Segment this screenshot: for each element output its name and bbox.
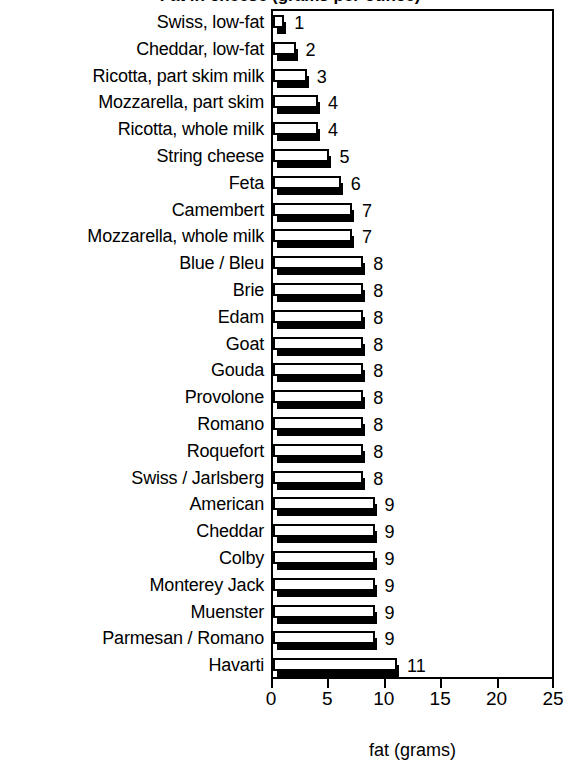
bar-row: 7: [273, 225, 552, 252]
bar-value-label: 4: [328, 93, 338, 113]
x-tick: [497, 679, 499, 688]
bar-value-label: 8: [373, 308, 383, 328]
category-label: Gouda: [0, 357, 264, 384]
bar-row: 4: [273, 91, 552, 118]
bar-row: 9: [273, 547, 552, 574]
category-label: Havarti: [0, 652, 264, 679]
chart-title-strip: Fat in cheese (grams per ounce): [0, 0, 580, 9]
bar-face: [273, 578, 375, 591]
x-tick-label: 5: [307, 688, 347, 710]
bar-row: 6: [273, 172, 552, 199]
bar-face: [273, 337, 363, 350]
category-label: Feta: [0, 170, 264, 197]
bar-row: 8: [273, 333, 552, 360]
x-tick-label: 10: [364, 688, 404, 710]
bar-value-label: 8: [373, 254, 383, 274]
x-tick-label: 25: [533, 688, 573, 710]
category-label: Parmesan / Romano: [0, 625, 264, 652]
bar-row: 9: [273, 574, 552, 601]
bar-row: 9: [273, 601, 552, 628]
bar-face: [273, 203, 352, 216]
category-label: Muenster: [0, 599, 264, 626]
category-label: Provolone: [0, 384, 264, 411]
bar-face: [273, 95, 318, 108]
category-label: Camembert: [0, 197, 264, 224]
bar-value-label: 11: [407, 656, 426, 676]
bar-row: 8: [273, 386, 552, 413]
category-label: Ricotta, part skim milk: [0, 63, 264, 90]
x-tick-label: 0: [251, 688, 291, 710]
bar-face: [273, 524, 375, 537]
bar-face: [273, 69, 307, 82]
x-axis-ticks: [271, 679, 554, 688]
x-tick: [327, 679, 329, 688]
bar-face: [273, 229, 352, 242]
bar-row: 9: [273, 520, 552, 547]
bar-row: 4: [273, 118, 552, 145]
chart-root: Fat in cheese (grams per ounce) Swiss, l…: [0, 0, 580, 774]
category-label: Ricotta, whole milk: [0, 116, 264, 143]
bar-row: 2: [273, 38, 552, 65]
bar-face: [273, 363, 363, 376]
category-label: Swiss, low-fat: [0, 9, 264, 36]
bar-value-label: 8: [373, 469, 383, 489]
bar-face: [273, 631, 375, 644]
category-label: Cheddar: [0, 518, 264, 545]
bar-value-label: 8: [373, 281, 383, 301]
bar-face: [273, 42, 296, 55]
category-label: Mozzarella, whole milk: [0, 223, 264, 250]
x-axis-tick-labels: 0510152025: [231, 688, 580, 712]
category-label: American: [0, 491, 264, 518]
bar-face: [273, 390, 363, 403]
x-tick-label: 20: [477, 688, 517, 710]
bar-value-label: 9: [385, 629, 395, 649]
chart-title: Fat in cheese (grams per ounce): [0, 0, 580, 5]
bar-value-label: 8: [373, 415, 383, 435]
bar-value-label: 8: [373, 442, 383, 462]
bar-row: 8: [273, 306, 552, 333]
category-label: Edam: [0, 304, 264, 331]
x-tick: [440, 679, 442, 688]
bar-face: [273, 310, 363, 323]
x-tick: [384, 679, 386, 688]
bar-face: [273, 176, 341, 189]
bar-row: 9: [273, 627, 552, 654]
bar-row: 1: [273, 11, 552, 38]
bar-value-label: 9: [385, 603, 395, 623]
category-label: Swiss / Jarlsberg: [0, 465, 264, 492]
x-tick: [552, 679, 554, 688]
bar-face: [273, 15, 284, 28]
bar-row: 8: [273, 252, 552, 279]
category-label: Brie: [0, 277, 264, 304]
bar-value-label: 8: [373, 361, 383, 381]
bar-value-label: 3: [317, 67, 327, 87]
bar-face: [273, 417, 363, 430]
bar-row: 8: [273, 279, 552, 306]
category-label: Cheddar, low-fat: [0, 36, 264, 63]
bar-row: 3: [273, 65, 552, 92]
bar-row: 8: [273, 359, 552, 386]
bar-value-label: 4: [328, 120, 338, 140]
category-label: Goat: [0, 331, 264, 358]
bar-face: [273, 256, 363, 269]
bar-face: [273, 444, 363, 457]
bars-container: 12344567788888888899999911: [273, 11, 552, 677]
bar-row: 8: [273, 413, 552, 440]
bar-row: 9: [273, 493, 552, 520]
bar-value-label: 8: [373, 335, 383, 355]
bar-value-label: 2: [306, 40, 316, 60]
bar-value-label: 9: [385, 549, 395, 569]
bar-value-label: 7: [362, 227, 372, 247]
bar-row: 8: [273, 440, 552, 467]
x-tick: [271, 679, 273, 688]
plot-area: 12344567788888888899999911: [271, 9, 554, 679]
category-label: Roquefort: [0, 438, 264, 465]
bar-row: 11: [273, 654, 552, 681]
bar-value-label: 6: [351, 174, 361, 194]
bar-value-label: 8: [373, 388, 383, 408]
bar-face: [273, 149, 329, 162]
x-tick-label: 15: [420, 688, 460, 710]
category-label: Blue / Bleu: [0, 250, 264, 277]
category-label: Monterey Jack: [0, 572, 264, 599]
bar-face: [273, 605, 375, 618]
